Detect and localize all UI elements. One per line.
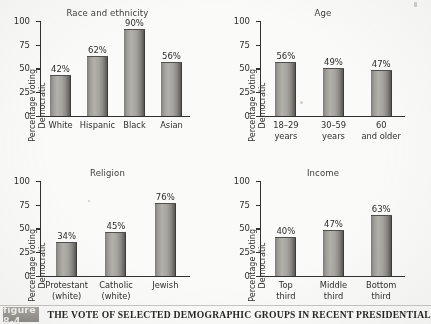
x-label-line1: Hispanic <box>80 120 115 130</box>
bar-slot: 63% <box>357 181 405 276</box>
x-label-line2: and older <box>357 131 405 142</box>
x-label-line2: third <box>357 291 405 302</box>
scan-speck <box>300 101 303 104</box>
y-tick-label-50: 50 <box>19 63 30 73</box>
bar-value-label: 45% <box>107 221 126 231</box>
bar-middle-third[interactable]: 47% <box>323 230 344 275</box>
bar-30-59[interactable]: 49% <box>323 68 344 115</box>
x-axis-line <box>40 276 190 277</box>
bar-white[interactable]: 42% <box>50 75 71 116</box>
bar-slot: 40% <box>262 181 310 276</box>
chart-title: Race and ethnicity <box>0 8 215 18</box>
bar-slot: 47% <box>310 181 358 276</box>
x-label: Hispanic <box>79 120 116 131</box>
bar-asian[interactable]: 56% <box>161 62 182 116</box>
bar-value-label: 42% <box>51 64 70 74</box>
chart-panel-religion: Religion Percentage voting Democratic 10… <box>0 168 215 318</box>
x-label-line1: Asian <box>160 120 183 130</box>
y-axis-label-line1: Percentage voting <box>248 69 257 142</box>
x-label-line1: 30–59 <box>321 120 346 130</box>
bar-value-label: 76% <box>156 192 175 202</box>
x-label-line2: (white) <box>91 291 140 302</box>
y-tick-label-50: 50 <box>239 63 250 73</box>
bar-value-label: 34% <box>57 231 76 241</box>
plot-area: Percentage voting Democratic 100 75 50 2… <box>260 21 405 117</box>
bar-black[interactable]: 90% <box>124 29 145 115</box>
bar-hispanic[interactable]: 62% <box>87 56 108 116</box>
y-tick-50: 50 <box>36 228 41 229</box>
chart-title: Religion <box>0 168 215 178</box>
y-tick-75: 75 <box>256 205 261 206</box>
bar-60-and-older[interactable]: 47% <box>371 70 392 115</box>
x-axis-line <box>260 276 405 277</box>
y-tick-100: 100 <box>36 21 41 22</box>
y-tick-label-25: 25 <box>239 87 250 97</box>
figure-caption-row: figure 8-4 THE VOTE OF SELECTED DEMOGRAP… <box>0 305 431 324</box>
x-label-line2: years <box>310 131 358 142</box>
y-tick-label-0: 0 <box>25 111 30 121</box>
x-label-line1: Jewish <box>152 280 178 290</box>
bar-top-third[interactable]: 40% <box>275 237 296 276</box>
bar-slot: 42% <box>42 21 79 116</box>
bar-value-label: 56% <box>162 51 181 61</box>
x-label-line1: Middle <box>320 280 347 290</box>
x-label: 60 and older <box>357 120 405 141</box>
x-label-line2: years <box>262 131 310 142</box>
y-tick-50: 50 <box>256 228 261 229</box>
x-label: 30–59 years <box>310 120 358 141</box>
chart-panel-age: Age Percentage voting Democratic 100 75 … <box>215 8 431 158</box>
bar-protestant-white[interactable]: 34% <box>56 242 77 275</box>
bar-group: 42% 62% 90% 56% <box>42 21 190 116</box>
chart-panel-race: Race and ethnicity Percentage voting Dem… <box>0 8 215 158</box>
x-label: Top third <box>262 280 310 301</box>
x-label: Black <box>116 120 153 131</box>
x-label-line1: Black <box>123 120 145 130</box>
y-tick-label-100: 100 <box>14 176 30 186</box>
x-label-line2: third <box>310 291 358 302</box>
y-tick-25: 25 <box>256 92 261 93</box>
plot-area: Percentage voting Democratic 100 75 50 2… <box>40 181 190 277</box>
x-axis-labels: Top third Middle third Bottom third <box>262 280 405 301</box>
bar-18-29[interactable]: 56% <box>275 62 296 116</box>
y-tick-label-100: 100 <box>14 16 30 26</box>
bar-jewish[interactable]: 76% <box>155 203 176 276</box>
y-tick-label-75: 75 <box>239 40 250 50</box>
x-label-line1: White <box>48 120 72 130</box>
y-tick-25: 25 <box>256 252 261 253</box>
bar-slot: 47% <box>357 21 405 116</box>
bar-value-label: 56% <box>276 51 295 61</box>
y-axis-label-line1: Percentage voting <box>28 69 37 142</box>
y-tick-label-25: 25 <box>239 247 250 257</box>
figure-page: Race and ethnicity Percentage voting Dem… <box>0 0 431 324</box>
y-axis-label-line1: Percentage voting <box>248 229 257 302</box>
x-label-line1: Catholic <box>99 280 133 290</box>
y-tick-75: 75 <box>36 205 41 206</box>
y-tick-0: 0 <box>256 276 261 277</box>
figure-caption-text: THE VOTE OF SELECTED DEMOGRAPHIC GROUPS … <box>48 309 431 320</box>
x-axis-labels: 18–29 years 30–59 years 60 and older <box>262 120 405 141</box>
y-tick-label-0: 0 <box>25 271 30 281</box>
bar-bottom-third[interactable]: 63% <box>371 215 392 276</box>
bar-slot: 49% <box>310 21 358 116</box>
y-tick-label-0: 0 <box>245 271 250 281</box>
y-tick-100: 100 <box>256 21 261 22</box>
bar-group: 56% 49% 47% <box>262 21 405 116</box>
x-label-line2: third <box>262 291 310 302</box>
x-label: Protestant (white) <box>42 280 91 301</box>
y-tick-50: 50 <box>36 68 41 69</box>
x-label: Catholic (white) <box>91 280 140 301</box>
x-label: Asian <box>153 120 190 131</box>
figure-number-badge: figure 8-4 <box>3 307 39 322</box>
bar-catholic-white[interactable]: 45% <box>105 232 126 276</box>
y-tick-100: 100 <box>36 181 41 182</box>
chart-panel-income: Income Percentage voting Democratic 100 … <box>215 168 431 318</box>
x-label: 18–29 years <box>262 120 310 141</box>
x-label-line1: Protestant <box>45 280 88 290</box>
y-tick-label-25: 25 <box>19 87 30 97</box>
bar-slot: 76% <box>141 181 190 276</box>
y-tick-label-75: 75 <box>19 40 30 50</box>
y-axis-label-line1: Percentage voting <box>28 229 37 302</box>
x-axis-labels: White Hispanic Black Asian <box>42 120 190 131</box>
scan-speck <box>414 2 417 7</box>
x-axis-labels: Protestant (white) Catholic (white) Jewi… <box>42 280 190 301</box>
